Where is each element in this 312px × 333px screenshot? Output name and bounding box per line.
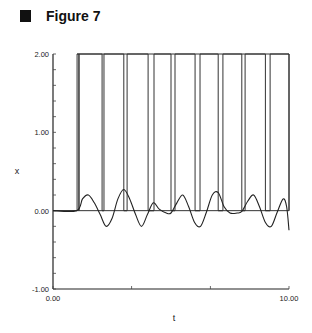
x-tick-label-min: 0.00 <box>46 294 61 303</box>
pulse-train-line <box>53 54 289 211</box>
y-tick-label-1: 1.00 <box>34 128 49 137</box>
chart: 0.00 10.00 2.00 1.00 0.00 -1.00 t x <box>0 0 312 333</box>
y-tick-label-neg1: -1.00 <box>32 285 49 294</box>
x-axis-label: t <box>173 313 176 323</box>
y-tick-label-0: 0.00 <box>34 207 49 216</box>
series-layer <box>53 54 289 230</box>
y-axis-label: x <box>15 166 20 176</box>
x-tick-label-max: 10.00 <box>280 294 299 303</box>
y-tick-label-2: 2.00 <box>34 50 49 59</box>
